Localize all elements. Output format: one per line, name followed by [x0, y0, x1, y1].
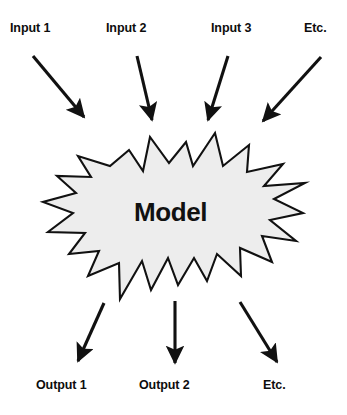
input-arrow-2 [137, 56, 152, 120]
output-label-3: Etc. [263, 378, 286, 392]
output-label-1: Output 1 [36, 378, 87, 392]
input-arrow-4 [263, 57, 321, 121]
model-diagram: Input 1 Input 2 Input 3 Etc. Model Outpu… [0, 0, 347, 415]
input-label-2: Input 2 [106, 21, 146, 35]
model-label: Model [134, 198, 207, 226]
output-label-2: Output 2 [139, 378, 190, 392]
output-arrow-1 [78, 303, 104, 361]
input-arrow-1 [33, 56, 84, 117]
output-arrow-3 [240, 302, 277, 362]
input-label-1: Input 1 [10, 21, 50, 35]
input-label-3: Input 3 [211, 21, 251, 35]
input-arrow-3 [208, 56, 228, 120]
input-label-4: Etc. [304, 21, 327, 35]
